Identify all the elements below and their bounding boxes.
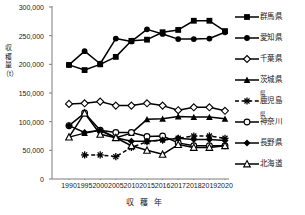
legend-marker-icon — [234, 52, 260, 66]
chart-canvas — [47, 6, 229, 180]
x-tick-label: 2018 — [186, 182, 202, 189]
legend-label: 長野県 — [260, 139, 282, 147]
chart-root: 収穫量（t） 050,000100,000150,000200,000250,0… — [0, 0, 305, 215]
legend-marker-icon — [234, 10, 260, 24]
x-tick-label: 1990 — [61, 182, 77, 189]
legend-marker-icon — [234, 115, 260, 129]
legend-label-suffix: 県 — [260, 90, 266, 96]
legend-label: 県神奈川 — [260, 118, 282, 126]
legend-label: 北海道 — [260, 160, 282, 168]
x-tick-label: 1995 — [77, 182, 93, 189]
x-tick-label: 2010 — [124, 182, 140, 189]
legend-item[interactable]: 長野県 — [234, 134, 282, 152]
legend-item[interactable]: 茨城県 — [234, 71, 282, 89]
series-0 — [66, 18, 228, 73]
legend-item[interactable]: 千葉県 — [234, 50, 282, 68]
x-tick-label: 2017 — [170, 182, 186, 189]
x-tick-label: 2020 — [217, 182, 233, 189]
x-tick-label: 2015 — [139, 182, 155, 189]
series-2 — [66, 98, 229, 114]
legend-label: 愛知県 — [260, 34, 282, 42]
legend-marker-icon — [234, 31, 260, 45]
x-tick-label: 2000 — [92, 182, 108, 189]
y-tick-label: 300,000 — [6, 4, 44, 11]
legend-marker-icon — [234, 94, 260, 108]
legend-label: 千葉県 — [260, 55, 282, 63]
x-axis-title: 収 穫 年 — [60, 196, 230, 207]
y-tick-label: 200,000 — [6, 61, 44, 68]
series-1 — [66, 26, 228, 67]
y-tick-label: 250,000 — [6, 32, 44, 39]
plot-area — [47, 6, 229, 180]
axis-lines — [52, 6, 229, 179]
legend-label: 茨城県 — [260, 76, 282, 84]
legend-label-suffix: 県 — [260, 111, 266, 117]
legend-marker-icon — [234, 157, 260, 171]
x-tick-label: 2005 — [108, 182, 124, 189]
legend-marker-icon — [234, 136, 260, 150]
y-tick-label: 150,000 — [6, 90, 44, 97]
legend: 群馬県愛知県千葉県茨城県県鹿児島県神奈川長野県北海道 — [234, 8, 305, 180]
y-tick-label: 0 — [6, 176, 44, 183]
legend-marker-icon — [234, 73, 260, 87]
y-tick-label: 100,000 — [6, 118, 44, 125]
legend-item[interactable]: 県神奈川 — [234, 113, 282, 131]
legend-label: 県鹿児島 — [260, 97, 282, 105]
y-tick-label: 50,000 — [6, 147, 44, 154]
legend-item[interactable]: 県鹿児島 — [234, 92, 282, 110]
x-tick-label: 2016 — [155, 182, 171, 189]
legend-item[interactable]: 群馬県 — [234, 8, 282, 26]
x-tick-label: 2019 — [202, 182, 218, 189]
legend-label: 群馬県 — [260, 13, 282, 21]
legend-item[interactable]: 北海道 — [234, 155, 282, 173]
y-axis-tick-labels: 050,000100,000150,000200,000250,000300,0… — [0, 0, 44, 215]
legend-item[interactable]: 愛知県 — [234, 29, 282, 47]
